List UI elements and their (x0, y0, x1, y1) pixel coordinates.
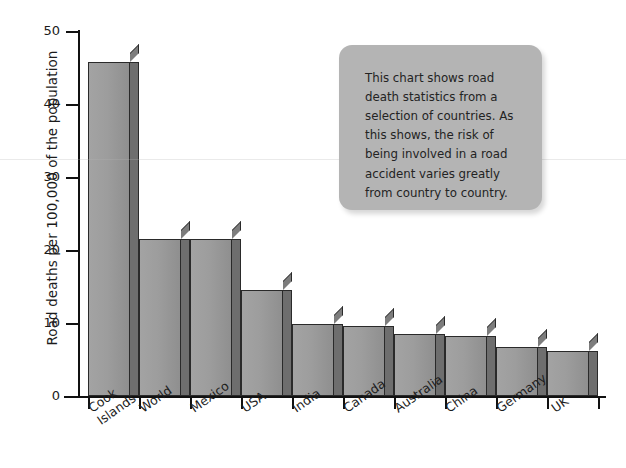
y-tick-label-0: 0 (20, 388, 60, 403)
y-tick-10 (66, 323, 78, 325)
y-tick-40 (66, 104, 78, 106)
description-callout: This chart shows road death statistics f… (339, 45, 542, 210)
bar-cook-islands (88, 30, 130, 396)
y-tick-50 (66, 31, 78, 33)
y-tick-label-30: 30 (20, 169, 60, 184)
y-tick-20 (66, 250, 78, 252)
bar-usa (241, 30, 283, 396)
y-axis-title: Road deaths per 100,000 of the populatio… (44, 38, 60, 358)
y-tick-label-20: 20 (20, 242, 60, 257)
bar-world (139, 30, 181, 396)
y-axis-line (78, 30, 80, 397)
bar-india (292, 30, 334, 396)
description-callout-text: This chart shows road death statistics f… (365, 69, 525, 203)
y-tick-label-40: 40 (20, 96, 60, 111)
y-tick-label-50: 50 (20, 23, 60, 38)
bar-mexico (190, 30, 232, 396)
bar-uk (547, 30, 589, 396)
y-tick-30 (66, 177, 78, 179)
chart-canvas: Road deaths per 100,000 of the populatio… (0, 0, 626, 468)
y-tick-0 (66, 396, 78, 398)
y-tick-label-10: 10 (20, 315, 60, 330)
x-tick-10 (598, 398, 600, 409)
